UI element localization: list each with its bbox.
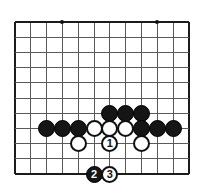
white-stone-h2[interactable]	[133, 135, 150, 152]
white-stone-g3[interactable]	[117, 120, 134, 137]
grid-line-horizontal-3	[15, 67, 189, 68]
white-stone-e3[interactable]	[86, 120, 103, 137]
white-stone-move-3-label: 3	[103, 168, 116, 181]
black-stone-move-2[interactable]: 2	[86, 166, 103, 183]
black-stone-c3[interactable]	[54, 120, 71, 137]
go-diagram-root: 123	[0, 0, 212, 190]
black-stone-b3[interactable]	[38, 120, 55, 137]
grid-line-horizontal-0	[15, 21, 189, 23]
grid-line-horizontal-1	[15, 37, 189, 38]
black-stone-i3[interactable]	[149, 120, 166, 137]
black-stone-move-2-label: 2	[87, 167, 102, 182]
go-board[interactable]: 123	[0, 0, 212, 190]
white-stone-move-1-label: 1	[103, 137, 116, 150]
grid-line-horizontal-2	[15, 52, 189, 53]
grid-line-horizontal-5	[15, 98, 189, 99]
grid-line-horizontal-4	[15, 82, 189, 83]
star-point-top-right	[155, 20, 159, 24]
white-stone-move-1[interactable]: 1	[101, 135, 118, 152]
white-stone-move-3[interactable]: 3	[101, 166, 118, 183]
star-point-top-left	[60, 20, 64, 24]
white-stone-d2[interactable]	[70, 135, 87, 152]
black-stone-j3[interactable]	[165, 120, 182, 137]
grid-line-horizontal-9	[15, 158, 189, 159]
